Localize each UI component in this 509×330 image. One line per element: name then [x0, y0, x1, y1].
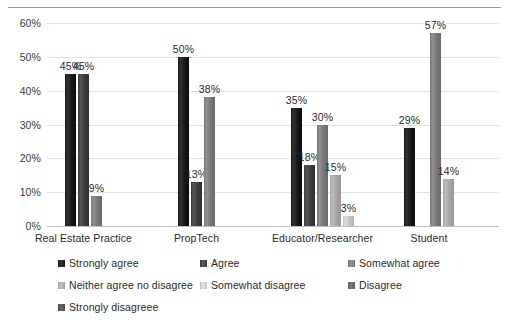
- bar-fill: [317, 125, 328, 227]
- y-axis-tick-label: 50%: [20, 51, 41, 63]
- y-axis-tick-label: 20%: [20, 152, 41, 164]
- legend-swatch-icon: [348, 282, 355, 289]
- legend-swatch-icon: [58, 304, 65, 311]
- legend-label: Agree: [211, 258, 240, 269]
- legend-label: Disagree: [359, 280, 402, 291]
- bar-value-label: 15%: [325, 161, 346, 173]
- legend-swatch-icon: [58, 260, 65, 267]
- bar-value-label: 30%: [312, 111, 333, 123]
- legend-label: Somewhat disagree: [211, 280, 306, 291]
- bar[interactable]: 30%: [317, 125, 328, 227]
- x-axis-category-label: Student: [411, 232, 448, 244]
- bar-value-label: 29%: [399, 114, 420, 126]
- y-axis-tick-label: 30%: [20, 119, 41, 131]
- bar[interactable]: 50%: [178, 57, 189, 226]
- legend-item[interactable]: Strongly agree: [58, 258, 139, 269]
- bar[interactable]: 18%: [304, 165, 315, 226]
- bar-value-label: 9%: [89, 182, 104, 194]
- bar-value-label: 35%: [286, 94, 307, 106]
- bar[interactable]: 29%: [404, 128, 415, 226]
- bar[interactable]: 57%: [430, 33, 441, 226]
- legend-item[interactable]: Somewhat disagree: [200, 280, 306, 291]
- bar-group: 35%18%30%15%3%: [273, 23, 386, 226]
- bar-fill: [430, 33, 441, 226]
- bar[interactable]: 45%: [65, 74, 76, 226]
- bar-fill: [191, 182, 202, 226]
- legend-item[interactable]: Strongly disagreee: [58, 302, 158, 313]
- legend-item[interactable]: Agree: [200, 258, 240, 269]
- legend-item[interactable]: Neither agree no disagree: [58, 280, 193, 291]
- bar-fill: [178, 57, 189, 226]
- gridline-0: [47, 226, 499, 227]
- bar-fill: [91, 196, 102, 226]
- y-axis-tick-label: 40%: [20, 85, 41, 97]
- bar[interactable]: 13%: [191, 182, 202, 226]
- bar-value-label: 57%: [425, 19, 446, 31]
- y-axis-tick-label: 0%: [26, 220, 41, 232]
- x-axis-category-label: Real Estate Practice: [35, 232, 132, 244]
- bar-value-label: 38%: [199, 83, 220, 95]
- bar-fill: [291, 108, 302, 226]
- bar-fill: [304, 165, 315, 226]
- bar[interactable]: 9%: [91, 196, 102, 226]
- y-axis-tick-label: 60%: [20, 17, 41, 29]
- bar-fill: [343, 216, 354, 226]
- top-divider-rule: [8, 7, 501, 8]
- bar[interactable]: 3%: [343, 216, 354, 226]
- bar-group: 50%13%38%: [160, 23, 273, 226]
- bar[interactable]: 45%: [78, 74, 89, 226]
- legend-label: Strongly agree: [69, 258, 139, 269]
- plot-area: 0%10%20%30%40%50%60%45%45%9%50%13%38%35%…: [47, 23, 499, 226]
- legend-label: Somewhat agree: [359, 258, 440, 269]
- bar[interactable]: 14%: [443, 179, 454, 226]
- bar[interactable]: 38%: [204, 97, 215, 226]
- legend-item[interactable]: Somewhat agree: [348, 258, 440, 269]
- bar-fill: [78, 74, 89, 226]
- bar-value-label: 14%: [438, 165, 459, 177]
- bar-fill: [330, 175, 341, 226]
- chart-legend: Strongly agreeAgreeSomewhat agreeNeither…: [0, 258, 509, 328]
- bar-group: 45%45%9%: [47, 23, 160, 226]
- bar-fill: [443, 179, 454, 226]
- legend-swatch-icon: [348, 260, 355, 267]
- legend-label: Neither agree no disagree: [69, 280, 193, 291]
- bar-chart: 0%10%20%30%40%50%60%45%45%9%50%13%38%35%…: [0, 0, 509, 330]
- legend-swatch-icon: [200, 282, 207, 289]
- legend-swatch-icon: [200, 260, 207, 267]
- legend-item[interactable]: Disagree: [348, 280, 402, 291]
- bar[interactable]: 35%: [291, 108, 302, 226]
- bar-value-label: 45%: [73, 60, 94, 72]
- bar-fill: [204, 97, 215, 226]
- legend-swatch-icon: [58, 282, 65, 289]
- x-axis-category-label: Educator/Researcher: [272, 232, 373, 244]
- x-axis-category-label: PropTech: [174, 232, 219, 244]
- bar[interactable]: 15%: [330, 175, 341, 226]
- bar-group: 29%57%14%: [386, 23, 499, 226]
- bar-fill: [65, 74, 76, 226]
- bar-value-label: 50%: [173, 43, 194, 55]
- legend-label: Strongly disagreee: [69, 302, 158, 313]
- bar-fill: [404, 128, 415, 226]
- bar-value-label: 3%: [341, 202, 356, 214]
- y-axis-tick-label: 10%: [20, 186, 41, 198]
